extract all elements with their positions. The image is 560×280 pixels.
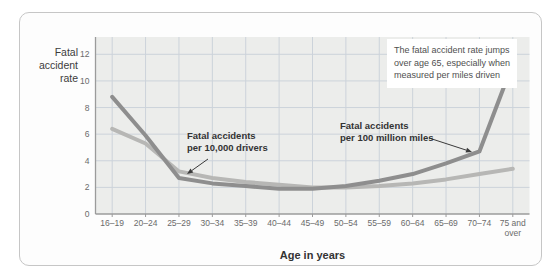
y-tick-label: 12 [80, 49, 90, 59]
x-axis-title: Age in years [95, 249, 530, 261]
x-tick-label: 65–69 [434, 218, 458, 228]
y-tick-label: 10 [80, 76, 90, 86]
y-tick-label: 6 [85, 129, 90, 139]
x-tick-label: 30–34 [201, 218, 225, 228]
x-tick-label: 45–49 [301, 218, 325, 228]
x-tick-label: 25–29 [167, 218, 191, 228]
x-tick-label: 20–24 [134, 218, 158, 228]
y-tick-label: 2 [85, 182, 90, 192]
chart-card: 02468101216–1920–2425–2930–3435–3940–444… [19, 12, 542, 266]
miles-series-label: Fatal accidents per 100 million miles [340, 120, 433, 145]
x-tick-label: 35–39 [234, 218, 258, 228]
x-tick-label: 16–19 [100, 218, 124, 228]
x-tick-label: 75 andover [500, 218, 526, 238]
x-tick-label: 55–59 [367, 218, 391, 228]
x-tick-label: 40–44 [267, 218, 291, 228]
y-tick-label: 8 [85, 103, 90, 113]
x-tick-label: 50–54 [334, 218, 358, 228]
drivers-series-label: Fatal accidents per 10,000 drivers [187, 130, 268, 155]
y-axis-title: Fatal accident rate [26, 46, 78, 85]
x-tick-label: 70–74 [468, 218, 492, 228]
y-tick-label: 0 [85, 209, 90, 219]
x-tick-label: 60–64 [401, 218, 425, 228]
y-tick-label: 4 [85, 156, 90, 166]
note-annotation: The fatal accident rate jumps over age 6… [387, 39, 517, 88]
